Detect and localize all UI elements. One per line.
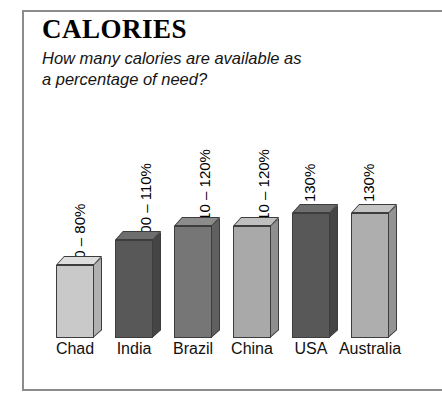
bar-top-face — [351, 204, 397, 213]
bar-side-face — [93, 257, 102, 338]
bar-brazil — [174, 226, 212, 338]
bar-front-face — [351, 213, 389, 338]
bar-front-face — [56, 265, 94, 338]
bar-front-face — [174, 226, 212, 338]
bar-side-face — [329, 205, 338, 338]
bar-chad — [56, 265, 94, 338]
bar-top-face — [115, 231, 161, 240]
bar-top-face — [174, 217, 220, 226]
bar-china — [233, 226, 271, 338]
bar-top-face — [56, 256, 102, 265]
bar-usa — [292, 213, 330, 338]
category-label-australia: Australia — [329, 340, 411, 358]
bar-front-face — [233, 226, 271, 338]
bar-side-face — [388, 205, 397, 338]
bar-side-face — [270, 218, 279, 338]
bar-australia — [351, 213, 389, 338]
bar-side-face — [152, 232, 161, 338]
bar-top-face — [292, 204, 338, 213]
bar-india — [115, 240, 153, 338]
bar-top-face — [233, 217, 279, 226]
bar-front-face — [292, 213, 330, 338]
bar-side-face — [211, 218, 220, 338]
bar-front-face — [115, 240, 153, 338]
